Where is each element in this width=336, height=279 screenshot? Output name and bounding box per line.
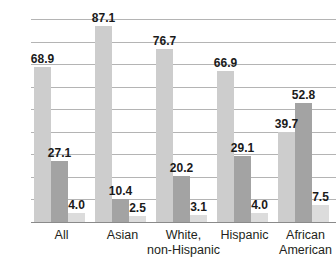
bar-value-label: 2.5	[129, 202, 146, 214]
bar	[312, 205, 329, 222]
bar	[68, 213, 85, 222]
gridline-50	[31, 109, 336, 110]
bar-value-label: 68.9	[31, 53, 54, 65]
gridline-60	[31, 87, 336, 88]
bar-value-label: 4.0	[68, 199, 85, 211]
gridline-0	[31, 222, 336, 223]
bar-value-label: 20.2	[170, 162, 193, 174]
bar-value-label: 29.1	[231, 142, 254, 154]
category-label: African American	[279, 228, 332, 258]
bar	[129, 216, 146, 222]
gridline-90	[31, 19, 336, 20]
bar-value-label: 66.9	[214, 57, 237, 69]
bar	[278, 132, 295, 222]
bar	[112, 199, 129, 222]
bar	[251, 213, 268, 222]
category-label: All	[55, 228, 69, 243]
bar-value-label: 27.1	[48, 147, 71, 159]
bar	[34, 67, 51, 222]
bar-value-label: 10.4	[109, 185, 132, 197]
bar	[234, 156, 251, 222]
category-label: White, non-Hispanic	[147, 228, 220, 258]
bar-value-label: 4.0	[251, 199, 268, 211]
bar-value-label: 76.7	[153, 35, 176, 47]
bar-value-label: 87.1	[92, 12, 115, 24]
category-label: Asian	[107, 228, 138, 243]
bar-value-label: 3.1	[190, 201, 207, 213]
bar	[51, 161, 68, 222]
bar-value-label: 7.5	[312, 191, 329, 203]
category-label: Hispanic	[221, 228, 269, 243]
bar-value-label: 39.7	[275, 118, 298, 130]
bar	[190, 215, 207, 222]
gridline-80	[31, 42, 336, 43]
bar-value-label: 52.8	[292, 89, 315, 101]
bar-chart: 0102030405060708090 68.927.14.087.110.42…	[0, 0, 336, 279]
gridline-70	[31, 64, 336, 65]
bar	[173, 176, 190, 222]
bar	[156, 49, 173, 222]
